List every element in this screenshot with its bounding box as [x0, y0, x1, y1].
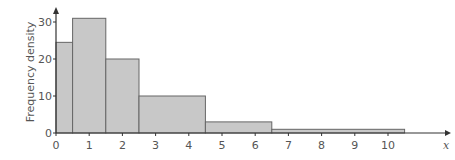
x-tick-label: 0 [53, 139, 60, 152]
x-axis-arrow-icon [445, 130, 451, 136]
x-tick-label: 9 [351, 139, 358, 152]
x-tick-label: 1 [86, 139, 93, 152]
y-tick-label: 30 [38, 16, 52, 29]
x-tick-label: 5 [219, 139, 226, 152]
x-tick-label: 7 [285, 139, 292, 152]
x-axis-label: x [443, 139, 450, 152]
histogram-chart: 0123456789100102030Frequency densityx [0, 0, 455, 160]
x-tick-label: 4 [185, 139, 192, 152]
y-axis-arrow-icon [53, 7, 59, 14]
y-tick-label: 0 [45, 127, 52, 140]
x-tick-label: 6 [252, 139, 259, 152]
histogram-bar [73, 18, 106, 133]
histogram-bar [56, 42, 73, 133]
x-tick-label: 10 [381, 139, 395, 152]
histogram-bar [139, 96, 205, 133]
x-tick-label: 8 [318, 139, 325, 152]
y-axis-label: Frequency density [24, 21, 37, 122]
histogram-bar [106, 59, 139, 133]
y-tick-label: 20 [38, 53, 52, 66]
x-tick-label: 2 [119, 139, 126, 152]
y-tick-label: 10 [38, 90, 52, 103]
x-tick-label: 3 [152, 139, 159, 152]
histogram-bar [205, 122, 271, 133]
